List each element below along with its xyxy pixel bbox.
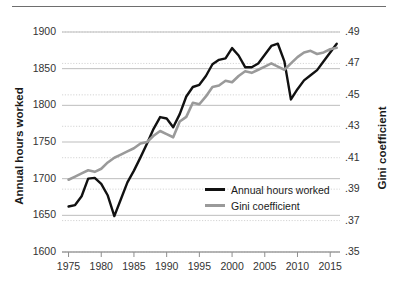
y-axis-right-tick-label: .37	[345, 214, 371, 226]
x-axis-tick-label: 2010	[280, 260, 314, 272]
y-axis-left-tick-label: 1750	[22, 135, 56, 147]
x-axis-tick-label: 1990	[150, 260, 184, 272]
series-line-gini-coefficient	[69, 48, 337, 180]
y-axis-right-tick-label: .45	[345, 88, 371, 100]
chart-canvas: 1600165017001750180018501900 .35.37.39.4…	[0, 0, 398, 288]
legend-label: Annual hours worked	[231, 184, 330, 196]
y-axis-right-tick-label: .41	[345, 151, 371, 163]
legend-label: Gini coefficient	[231, 200, 300, 212]
legend-swatch-icon	[205, 188, 225, 191]
y-axis-left-title: Annual hours worked	[13, 81, 25, 211]
y-axis-right-tick-label: .43	[345, 119, 371, 131]
x-axis-tick-label: 2015	[313, 260, 347, 272]
y-axis-left-tick-label: 1900	[22, 25, 56, 37]
y-axis-left-tick-label: 1600	[22, 245, 56, 257]
legend-item: Gini coefficient	[205, 196, 300, 214]
x-axis-tick-label: 2000	[215, 260, 249, 272]
y-axis-right-tick-label: .35	[345, 245, 371, 257]
x-axis-tick-label: 1985	[117, 260, 151, 272]
y-axis-left-tick-label: 1650	[22, 208, 56, 220]
gridlines-major	[62, 32, 340, 252]
y-axis-left-tick-label: 1800	[22, 98, 56, 110]
legend-swatch-icon	[205, 204, 225, 207]
y-axis-right-tick-label: .39	[345, 182, 371, 194]
y-axis-right-tick-label: .47	[345, 56, 371, 68]
x-axis-tick-label: 1975	[52, 260, 86, 272]
axis-ticks	[69, 252, 331, 257]
x-axis-tick-label: 1980	[84, 260, 118, 272]
y-axis-left-tick-label: 1700	[22, 172, 56, 184]
y-axis-right-tick-label: .49	[345, 25, 371, 37]
x-axis-tick-label: 1995	[182, 260, 216, 272]
x-axis-tick-label: 2005	[248, 260, 282, 272]
y-axis-left-tick-label: 1850	[22, 62, 56, 74]
plot-svg	[0, 0, 398, 288]
y-axis-right-title: Gini coefficient	[376, 83, 388, 213]
